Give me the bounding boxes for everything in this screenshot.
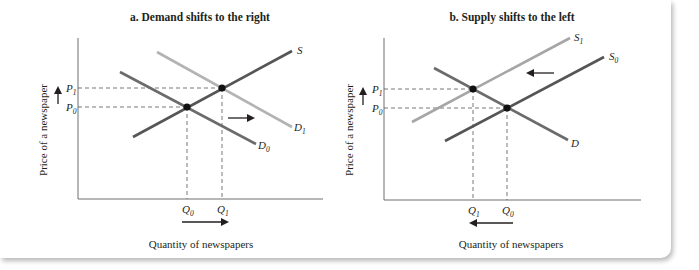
tick-q1: Q1 (468, 204, 480, 219)
label-d0: D0 (257, 139, 270, 154)
curve-s (133, 51, 292, 137)
label-d: D (570, 137, 579, 149)
equilibrium-e1 (469, 85, 476, 92)
tick-p1: P1 (371, 83, 382, 98)
panel-a-y-label: Price of a newspaper (37, 84, 49, 176)
curve-d (434, 68, 568, 140)
tick-p1: P1 (65, 82, 76, 97)
equilibrium-e0 (183, 103, 190, 110)
tick-p0: P0 (371, 102, 383, 117)
label-s: S (297, 44, 303, 56)
equilibrium-e1 (218, 84, 225, 91)
panel-b: b. Supply shifts to the left Price of a … (343, 11, 641, 250)
panel-a: a. Demand shifts to the right Price of a… (37, 11, 323, 250)
tick-p0: P0 (65, 101, 77, 116)
panel-b-title: b. Supply shifts to the left (449, 11, 574, 24)
panel-b-x-label: Quantity of newspapers (459, 238, 563, 250)
label-d1: D1 (293, 121, 306, 136)
tick-q0: Q0 (182, 203, 194, 218)
equilibrium-e0 (503, 104, 510, 111)
tick-q0: Q0 (502, 204, 514, 219)
curve-s1 (412, 38, 570, 122)
panel-a-x-label: Quantity of newspapers (149, 238, 253, 250)
panel-b-y-label: Price of a newspaper (343, 84, 355, 176)
tick-q1: Q1 (217, 203, 229, 218)
curve-s0 (445, 57, 604, 141)
panel-a-title: a. Demand shifts to the right (130, 11, 270, 24)
panel-a-guides (78, 88, 222, 199)
figure-svg: a. Demand shifts to the right Price of a… (0, 0, 699, 270)
label-s1: S1 (574, 31, 583, 46)
label-s0: S0 (609, 50, 619, 65)
